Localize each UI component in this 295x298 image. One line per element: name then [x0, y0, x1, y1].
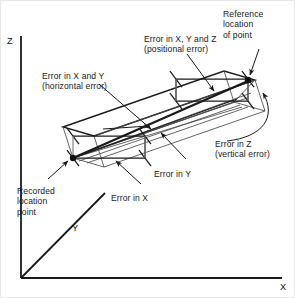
reference-location-label: Reference location of point	[223, 9, 263, 40]
z-axis-label: Z	[7, 36, 13, 46]
reference-location-label-line3: of point	[223, 30, 263, 40]
horizontal-error-label-line2: (horizontal error)	[42, 81, 107, 91]
vertical-error-label: Error in Z (vertical error)	[215, 139, 270, 160]
x-axis-label: X	[280, 282, 286, 292]
reference-location-label-line1: Reference	[223, 9, 263, 19]
recorded-location-point-marker	[70, 155, 76, 161]
positional-error-label-line1: Error in X, Y and Z	[144, 34, 217, 44]
error-in-y-label: Error in Y	[154, 169, 191, 179]
horizontal-error-label: Error in X and Y (horizontal error)	[42, 71, 107, 92]
recorded-location-label: Recorded location point	[17, 186, 55, 217]
leader-recorded-point	[48, 161, 68, 179]
leader-lines	[48, 49, 268, 184]
error-in-x-label: Error in X	[111, 193, 148, 203]
positional-error-label-line2: (positional error)	[144, 44, 217, 54]
leader-error-in-x	[116, 161, 141, 184]
leader-positional-error	[187, 54, 214, 91]
reference-location-label-line2: location	[223, 19, 263, 29]
vertical-error-label-line1: Error in Z	[215, 139, 270, 149]
recorded-location-label-line3: point	[17, 207, 55, 217]
leader-reference-point	[250, 49, 259, 75]
vertical-error-label-line2: (vertical error)	[215, 149, 270, 159]
horizontal-error-label-line1: Error in X and Y	[42, 71, 107, 81]
diagram-canvas: Z X Y Reference location of point Error …	[0, 0, 295, 298]
recorded-location-label-line1: Recorded	[17, 186, 55, 196]
reference-location-point-marker	[245, 77, 251, 83]
recorded-location-label-line2: location	[17, 196, 55, 206]
y-axis-label: Y	[72, 223, 78, 233]
positional-error-label: Error in X, Y and Z (positional error)	[144, 34, 217, 55]
